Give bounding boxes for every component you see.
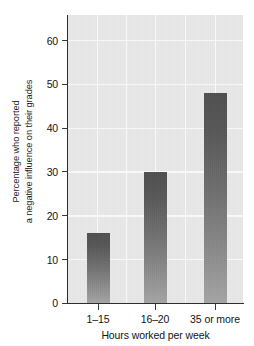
y-tick-label-10: 10 bbox=[34, 255, 58, 266]
x-tick-label-35-or-more: 35 or more bbox=[190, 313, 240, 325]
gridline-v-4 bbox=[185, 15, 186, 303]
y-tick-label-40: 40 bbox=[34, 123, 58, 134]
x-tick-mark-1-15 bbox=[98, 304, 99, 310]
bar-chart-figure: Percentage who reporteda negative influe… bbox=[0, 0, 254, 346]
y-tick-label-20: 20 bbox=[34, 211, 58, 222]
y-axis-line bbox=[67, 15, 68, 304]
y-tick-label-30: 30 bbox=[34, 167, 58, 178]
x-axis-title: Hours worked per week bbox=[68, 329, 243, 341]
y-axis-title-text: Percentage who reporteda negative influe… bbox=[11, 79, 36, 223]
y-tick-label-0: 0 bbox=[34, 298, 58, 309]
bar-35-or-more bbox=[204, 93, 227, 303]
x-tick-label-1-15: 1–15 bbox=[87, 313, 110, 325]
x-tick-mark-16-20 bbox=[155, 304, 156, 310]
y-tick-label-50: 50 bbox=[34, 79, 58, 90]
gridline-v-2 bbox=[126, 15, 127, 303]
x-tick-mark-35-or-more bbox=[215, 304, 216, 310]
y-axis-title-line1: Percentage who reported bbox=[12, 100, 22, 202]
bar-1-15 bbox=[87, 233, 110, 303]
y-tick-label-60: 60 bbox=[34, 36, 58, 47]
plot-area bbox=[68, 15, 243, 303]
y-axis-title-line2: a negative influence on their grades bbox=[24, 79, 34, 223]
bar-16-20 bbox=[144, 172, 167, 303]
x-tick-label-16-20: 16–20 bbox=[141, 313, 170, 325]
